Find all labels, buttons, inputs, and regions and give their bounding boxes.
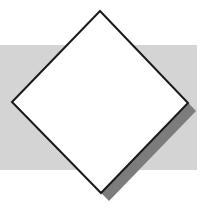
figure-canvas: White diamond over grey horizontal band … (0, 0, 205, 219)
diamond-figure-svg (0, 0, 205, 219)
